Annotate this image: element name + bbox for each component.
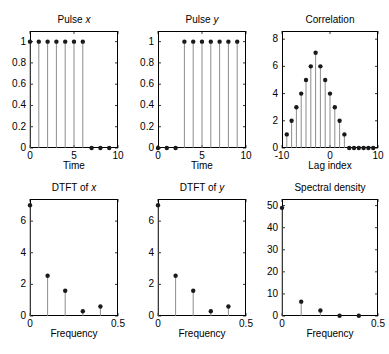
- stem-marker: [357, 314, 361, 318]
- stem-marker: [337, 314, 341, 318]
- figure-canvas: Pulse x00.20.40.60.810510TimePulse y00.2…: [0, 0, 389, 354]
- stem-series-spectral-density: [0, 0, 389, 354]
- plot-panel-spectral-density: Spectral density0102030405000.5Frequency: [0, 0, 389, 354]
- stem-marker: [299, 299, 303, 303]
- axis-ticks-spectral-density: [282, 199, 378, 316]
- stem-marker: [280, 206, 284, 210]
- stem-marker: [318, 308, 322, 312]
